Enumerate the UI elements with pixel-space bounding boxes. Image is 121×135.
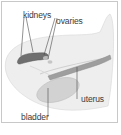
label-kidneys: kidneys: [23, 11, 51, 20]
ovary-shape: [48, 60, 53, 64]
label-ovaries: ovaries: [56, 17, 83, 26]
label-uterus: uterus: [81, 95, 104, 104]
label-bladder: bladder: [21, 113, 49, 122]
